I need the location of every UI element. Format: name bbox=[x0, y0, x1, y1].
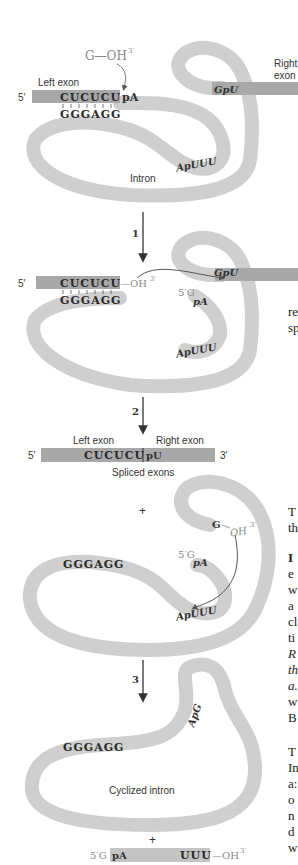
pairing-sequence-2: GGGAGG bbox=[63, 558, 125, 571]
attached-pA-1: pA bbox=[193, 296, 208, 307]
side-text-4: I bbox=[288, 550, 293, 565]
spliced-exons-caption: Spliced exons bbox=[112, 467, 174, 478]
attack-arrow bbox=[117, 64, 126, 88]
side-text-19: n bbox=[288, 808, 295, 823]
side-text-13: w bbox=[288, 694, 298, 709]
side-text-10: R bbox=[287, 646, 296, 661]
right-exon-label-1: Right bbox=[274, 58, 298, 69]
left-exon-sequence-1: CUCUCU bbox=[60, 277, 121, 290]
plus-sign-2: + bbox=[149, 833, 156, 847]
side-text-6: w bbox=[288, 582, 298, 597]
g-oh-tail: OH bbox=[229, 525, 248, 539]
left-exon-label-2: Left exon bbox=[73, 435, 114, 446]
fragment-5prime: 5′G bbox=[90, 850, 107, 861]
side-text-15: T bbox=[288, 744, 296, 759]
step-3-number: 3 bbox=[132, 674, 139, 685]
side-text-12: a. bbox=[288, 678, 298, 693]
step-2-number: 2 bbox=[132, 406, 139, 417]
five-prime-label-2: 5′ bbox=[28, 450, 36, 461]
stage-2-spliced: Left exon Right exon 5′ CUCUCU pU 3′ Spl… bbox=[28, 435, 269, 650]
side-text-11: th bbox=[288, 662, 298, 677]
pairing-sequence: GGGAGG bbox=[60, 108, 122, 121]
guanosine-label: G—OH bbox=[85, 49, 127, 63]
left-junction: pA bbox=[122, 91, 139, 104]
side-text-20: d bbox=[288, 824, 295, 839]
attached-pA-2: pA bbox=[193, 557, 208, 568]
right-junction-1: GpU bbox=[214, 267, 240, 278]
side-text-3: th bbox=[288, 520, 298, 535]
cyclized-intron-caption: Cyclized intron bbox=[109, 785, 175, 796]
side-text-21: w bbox=[288, 840, 298, 855]
pairing-sequence-1: GGGAGG bbox=[60, 294, 122, 307]
spliced-right-sequence: pU bbox=[146, 450, 162, 461]
stage-0-precursor: G—OH 3′ Left exon Right exon 5′ CUCUCU p… bbox=[18, 47, 298, 196]
g-oh-superscript: 3′ bbox=[250, 521, 256, 529]
side-text-14: B bbox=[288, 710, 297, 725]
fragment-oh: —OH bbox=[212, 850, 239, 861]
fragment-pA: pA bbox=[112, 850, 127, 861]
side-text-17: a: bbox=[288, 776, 297, 791]
side-text-1: sp bbox=[288, 320, 298, 335]
stage-1-intermediate: 5′ CUCUCU —OH 3′ GGGAGG 5′G pA GpU ApUUU bbox=[18, 238, 298, 386]
intron-label: Intron bbox=[130, 173, 156, 184]
side-text-8: cl bbox=[288, 614, 298, 629]
side-text-7: a bbox=[288, 598, 294, 613]
five-prime-label: 5′ bbox=[18, 92, 26, 103]
fragment-uuu: UUU bbox=[180, 849, 212, 862]
side-text-16: In bbox=[288, 760, 298, 775]
right-junction: GpU bbox=[214, 84, 240, 95]
oh-superscript-1: 3′ bbox=[150, 275, 156, 283]
guanosine-superscript: 3′ bbox=[128, 47, 134, 55]
side-text-18: o bbox=[288, 792, 295, 807]
oh-label-1: —OH bbox=[120, 278, 147, 289]
spliced-left-sequence: CUCUCU bbox=[84, 449, 145, 462]
group-i-intron-splicing-diagram: G—OH 3′ Left exon Right exon 5′ CUCUCU p… bbox=[0, 0, 298, 865]
left-exon-label: Left exon bbox=[38, 77, 79, 88]
g-oh-label: G bbox=[212, 519, 221, 530]
side-text-5: e bbox=[288, 566, 294, 581]
side-text-9: ti bbox=[288, 630, 296, 645]
clipped-body-text: re sp T th I e w a cl ti R th a. w B T I… bbox=[287, 304, 298, 855]
side-text-2: T bbox=[288, 504, 296, 519]
step-1-number: 1 bbox=[132, 228, 139, 239]
five-prime-label-1: 5′ bbox=[18, 278, 26, 289]
right-exon-label-2: Right exon bbox=[156, 435, 204, 446]
fragment-superscript: 3′ bbox=[240, 847, 246, 855]
side-text-0: re bbox=[288, 304, 298, 319]
pairing-sequence-3: GGGAGG bbox=[63, 741, 125, 754]
plus-sign-1: + bbox=[139, 504, 146, 518]
three-prime-label-2: 3′ bbox=[220, 450, 228, 461]
right-exon-label-2: exon bbox=[274, 70, 296, 81]
left-exon-sequence: CUCUCU bbox=[60, 91, 121, 104]
